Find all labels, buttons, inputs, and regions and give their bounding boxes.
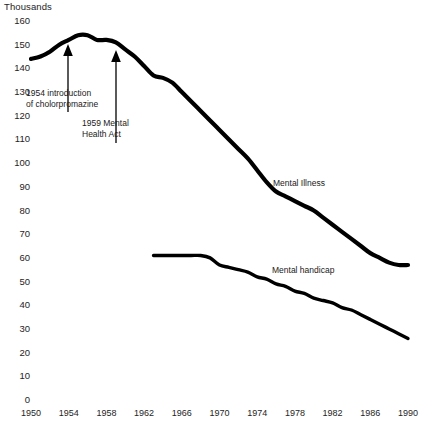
annotation-chlorpromazine: 1954 introduction of cholorpromazine [26, 88, 98, 109]
series-label-mental-illness: Mental Illness [273, 178, 325, 188]
series-label-mental-handicap: Mental handicap [272, 265, 334, 275]
chart-container: Thousands 160150140130120110100908070605… [0, 0, 440, 426]
annotation-mental-health-act: 1959 Mental Health Act [82, 118, 129, 139]
series-line-mental-illness [31, 35, 408, 266]
chart-plot-svg [0, 0, 440, 426]
